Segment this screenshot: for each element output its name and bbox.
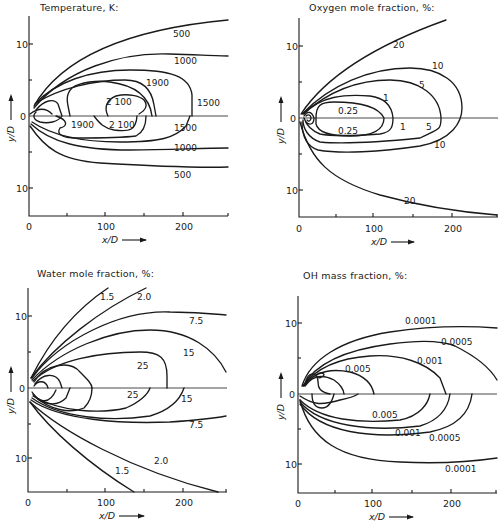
temperature-xarrow-icon xyxy=(140,238,147,243)
oh-panel: 10 0 10 0 100 200 x/D y/D xyxy=(275,296,497,522)
water-xlabel: x/D xyxy=(98,510,115,521)
temperature-xtick-0: 0 xyxy=(26,221,32,232)
oh-label-0001-upper: 0.001 xyxy=(417,356,443,366)
water-xtick-200: 200 xyxy=(175,497,193,508)
temperature-iso-500-lower xyxy=(30,126,228,167)
water-label-75-upper: 7.5 xyxy=(189,316,203,326)
temperature-ytick-bottom: 10 xyxy=(16,183,28,194)
oh-xarrow-icon xyxy=(407,515,414,520)
oh-ytick-top: 10 xyxy=(285,318,297,329)
water-label-15a-lower: 1.5 xyxy=(115,466,129,476)
temperature-panel: 10 0 10 0 100 200 x/D y/D xyxy=(5,16,228,245)
contour-plots-svg: 10 0 10 0 100 200 x/D y/D xyxy=(0,0,502,526)
water-label-25-lower: 25 xyxy=(127,390,138,400)
temperature-label-1900-upper: 1900 xyxy=(146,78,169,88)
temperature-label-500-lower: 500 xyxy=(174,170,191,180)
oxygen-xtick-0: 0 xyxy=(296,223,302,234)
temperature-xtick-200: 200 xyxy=(175,221,193,232)
temperature-ytick-top: 10 xyxy=(16,39,28,50)
water-xtick-100: 100 xyxy=(97,497,115,508)
oxygen-xtick-100: 100 xyxy=(365,223,383,234)
oxygen-label-1-lower: 1 xyxy=(400,122,406,132)
water-xtick-0: 0 xyxy=(25,497,31,508)
temperature-label-1900-lower: 1900 xyxy=(71,120,94,130)
temperature-ytick-zero: 0 xyxy=(20,111,26,122)
oxygen-label-10-lower: 10 xyxy=(434,140,446,150)
water-label-15a-upper: 1.5 xyxy=(100,292,114,302)
oxygen-label-025-lower: 0.25 xyxy=(338,126,358,136)
temperature-ylabel: y/D xyxy=(5,126,16,143)
oh-xtick-0: 0 xyxy=(295,498,301,509)
oxygen-ytick-zero: 0 xyxy=(290,113,296,124)
oh-label-0001-lower: 0.001 xyxy=(395,428,421,438)
water-label-25-upper: 25 xyxy=(137,361,148,371)
oxygen-iso-20-lower xyxy=(300,122,497,215)
temperature-label-1500-lower: 1500 xyxy=(174,123,197,133)
oh-iso-00001-upper xyxy=(302,327,497,386)
oh-iso-inner-lower xyxy=(300,394,358,403)
oh-label-00005-lower: 0.0005 xyxy=(429,433,461,443)
oxygen-label-1-upper: 1 xyxy=(383,93,389,103)
oxygen-label-20-lower: 20 xyxy=(404,196,416,206)
contour-figure: Temperature, K: Oxygen mole fraction, %:… xyxy=(0,0,502,526)
water-label-15-upper: 15 xyxy=(183,348,194,358)
oh-xtick-200: 200 xyxy=(443,498,461,509)
oxygen-xtick-200: 200 xyxy=(444,223,462,234)
oxygen-ytick-bottom: 10 xyxy=(286,185,298,196)
oh-iso-small-loop xyxy=(316,373,324,378)
water-iso-core-lower xyxy=(32,390,56,401)
temperature-label-1500-upper: 1500 xyxy=(197,98,220,108)
temperature-label-1000-upper: 1000 xyxy=(174,56,197,66)
oh-yarrow-icon xyxy=(279,372,284,379)
temperature-yarrow-icon xyxy=(9,94,14,101)
oh-iso-0005-inner-upper xyxy=(305,377,344,394)
oxygen-label-5-upper: 5 xyxy=(419,80,425,90)
water-yarrow-icon xyxy=(9,366,14,373)
water-label-20-lower: 2.0 xyxy=(154,456,169,466)
oxygen-ytick-top: 10 xyxy=(286,41,298,52)
water-ytick-top: 10 xyxy=(15,311,27,322)
water-label-20-upper: 2.0 xyxy=(137,292,152,302)
oh-iso-inner-drop xyxy=(312,394,334,408)
temperature-iso-nozzle xyxy=(30,110,52,115)
water-ytick-bottom: 10 xyxy=(15,453,27,464)
water-iso-20-lower xyxy=(30,402,218,492)
temperature-xtick-100: 100 xyxy=(97,221,115,232)
temperature-xlabel: x/D xyxy=(101,234,118,245)
oh-label-00001-upper: 0.0001 xyxy=(405,316,437,326)
oh-ytick-bottom: 10 xyxy=(285,459,297,470)
temperature-label-1000-lower: 1000 xyxy=(174,143,197,153)
water-ylabel: y/D xyxy=(5,398,16,415)
oh-label-0005-lower: 0.005 xyxy=(372,410,398,420)
oxygen-ylabel: y/D xyxy=(275,128,286,145)
oh-xlabel: x/D xyxy=(368,511,385,522)
temperature-label-2100-upper: 2 100 xyxy=(106,97,132,107)
temperature-iso-500-upper xyxy=(34,20,228,106)
oxygen-label-5-lower: 5 xyxy=(426,122,432,132)
water-panel: 10 0 10 0 100 200 x/D y/D xyxy=(5,288,227,521)
water-iso-15-upper xyxy=(32,330,226,380)
oxygen-label-10-upper: 10 xyxy=(432,61,444,71)
oxygen-label-025-upper: 0.25 xyxy=(338,106,358,116)
oh-label-0005-upper: 0.005 xyxy=(345,364,371,374)
oh-ylabel: y/D xyxy=(275,404,286,421)
water-label-75-lower: 7.5 xyxy=(189,420,203,430)
oh-label-00005-upper: 0.0005 xyxy=(441,337,473,347)
temperature-iso-1900-upper xyxy=(36,80,156,116)
oxygen-xlabel: x/D xyxy=(370,236,387,247)
temperature-label-2100-lower: 2 100 xyxy=(109,120,135,130)
oxygen-yarrow-icon xyxy=(279,96,284,103)
oxygen-label-20-upper: 20 xyxy=(393,40,405,50)
oh-xtick-100: 100 xyxy=(364,498,382,509)
oxygen-ticks xyxy=(299,46,497,217)
oh-label-00001-lower: 0.0001 xyxy=(445,464,477,474)
oxygen-xarrow-icon xyxy=(408,240,415,245)
oh-ytick-zero: 0 xyxy=(289,389,295,400)
water-ytick-zero: 0 xyxy=(19,383,25,394)
temperature-label-500-upper: 500 xyxy=(173,29,190,39)
water-xarrow-icon xyxy=(138,514,145,519)
oxygen-panel: 10 0 10 0 100 200 x/D y/D xyxy=(275,18,498,247)
water-iso-20-upper xyxy=(31,288,146,378)
water-label-15-lower: 15 xyxy=(181,394,192,404)
